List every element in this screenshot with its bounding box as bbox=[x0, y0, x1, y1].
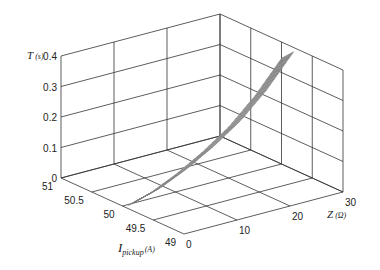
z-tick-label: 0 bbox=[186, 239, 192, 250]
floor-gridline-z bbox=[167, 150, 290, 206]
back-wall-gridline-t bbox=[61, 45, 220, 87]
back-wall-gridline-t bbox=[61, 75, 220, 117]
t-axis-label: T(s) bbox=[27, 49, 44, 61]
z-tick-label: 20 bbox=[292, 211, 304, 222]
floor-gridline-z bbox=[114, 164, 237, 220]
floor-gridline-i bbox=[92, 150, 251, 192]
z-tick-label: 10 bbox=[239, 225, 251, 236]
surface-chart: 00.10.20.30.44949.55050.5510102030 T(s) … bbox=[0, 0, 380, 270]
t-tick-label: 0.1 bbox=[43, 143, 57, 154]
i-axis-label: Ipickup(A) bbox=[117, 240, 155, 257]
back-wall-gridline-t bbox=[61, 136, 220, 178]
i-tick-label: 51 bbox=[42, 181, 54, 192]
floor-gridline-z bbox=[61, 178, 184, 234]
t-tick-label: 0.4 bbox=[43, 51, 57, 62]
i-tick-label: 49 bbox=[165, 237, 177, 248]
back-wall-gridline-t bbox=[61, 14, 220, 56]
floor-gridline-i bbox=[184, 192, 343, 234]
z-tick-label: 30 bbox=[345, 197, 357, 208]
i-tick-label: 50.5 bbox=[64, 195, 84, 206]
back-wall-gridline-t bbox=[61, 106, 220, 148]
z-axis-label: Z(Ω) bbox=[327, 208, 347, 220]
t-tick-label: 0.2 bbox=[43, 112, 57, 123]
i-tick-label: 49.5 bbox=[126, 223, 146, 234]
t-tick-label: 0.3 bbox=[43, 82, 57, 93]
i-tick-label: 50 bbox=[103, 209, 115, 220]
floor-gridline-i bbox=[123, 164, 282, 206]
chart-grid bbox=[61, 14, 343, 234]
floor-gridline-i bbox=[153, 178, 312, 220]
